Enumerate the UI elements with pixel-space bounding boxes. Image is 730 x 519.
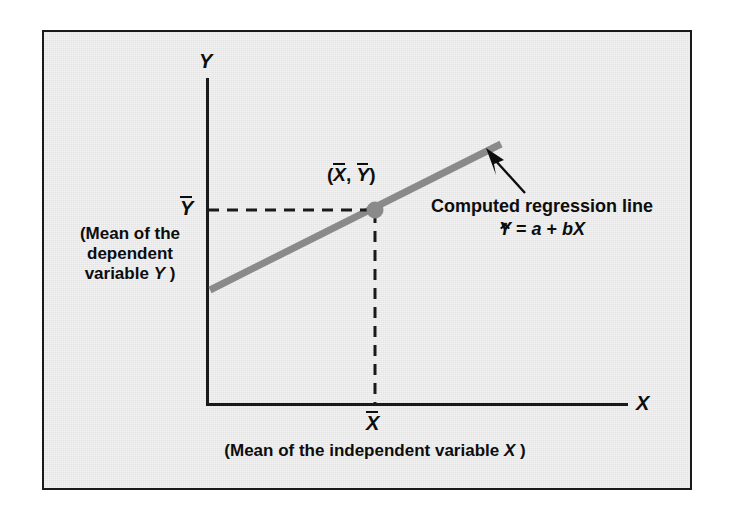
point-label-close-paren: ) <box>369 164 375 185</box>
y-caption-variable: Y <box>154 264 165 283</box>
x-mean-symbol: X <box>366 412 379 434</box>
y-caption-line-3-pre: variable <box>85 264 154 283</box>
x-axis-caption: (Mean of the independent variable X ) <box>175 441 575 461</box>
point-label-x-symbol: X <box>333 164 346 185</box>
x-axis-label: X <box>636 392 649 416</box>
y-axis-caption: (Mean of the dependent variable Y ) <box>60 224 200 284</box>
equation-yhat-symbol: Y <box>499 219 511 239</box>
point-label-comma: , <box>346 164 357 185</box>
figure-root: Y X Y X (Mean of the dependent variable … <box>0 0 730 519</box>
x-caption-pre: (Mean of the independent variable <box>224 441 504 460</box>
regression-line-annotation: Computed regression line Y = a + bX <box>424 196 660 240</box>
equation-x-variable: X <box>573 219 585 239</box>
equation-intercept: a <box>531 219 541 239</box>
x-caption-variable: X <box>504 441 515 460</box>
y-caption-line-1: (Mean of the <box>60 224 200 244</box>
x-mean-tick-label: X <box>366 411 379 436</box>
y-mean-tick-label: Y <box>180 196 193 221</box>
equation-plus: + <box>542 219 563 239</box>
equation-equals: = <box>511 219 532 239</box>
regression-equation: Y = a + bX <box>424 219 660 240</box>
y-caption-line-3: variable Y ) <box>60 264 200 284</box>
equation-slope: b <box>562 219 573 239</box>
mean-point-label: (X, Y) <box>327 163 376 186</box>
regression-annotation-title: Computed regression line <box>424 196 660 217</box>
y-caption-line-3-post: ) <box>165 264 175 283</box>
y-caption-line-2: dependent <box>60 244 200 264</box>
x-caption-post: ) <box>515 441 525 460</box>
y-mean-symbol: Y <box>180 197 193 219</box>
y-axis-label: Y <box>199 50 212 74</box>
point-label-y-symbol: Y <box>357 164 370 185</box>
